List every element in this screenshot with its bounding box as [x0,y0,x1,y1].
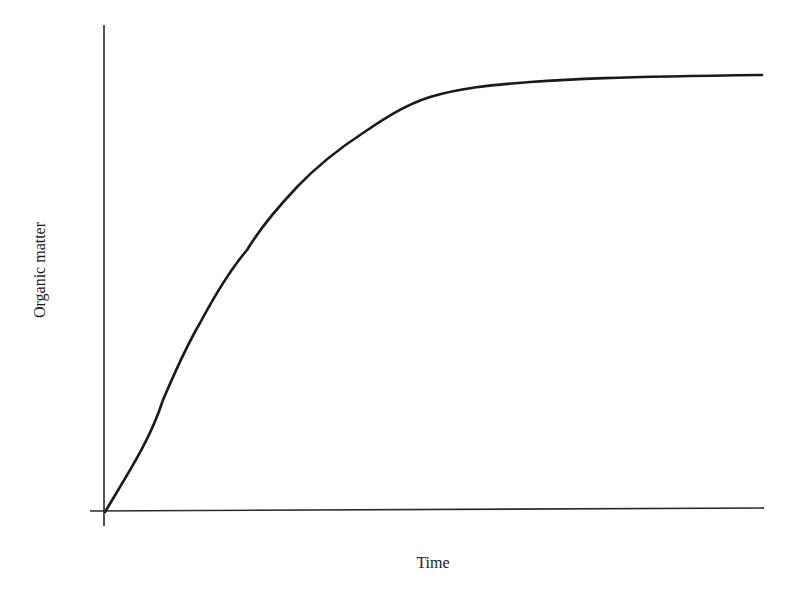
x-axis [90,508,764,511]
y-axis-label: Organic matter [31,222,49,318]
growth-chart [0,0,790,600]
organic-matter-curve [105,75,762,512]
x-axis-label: Time [416,554,449,572]
